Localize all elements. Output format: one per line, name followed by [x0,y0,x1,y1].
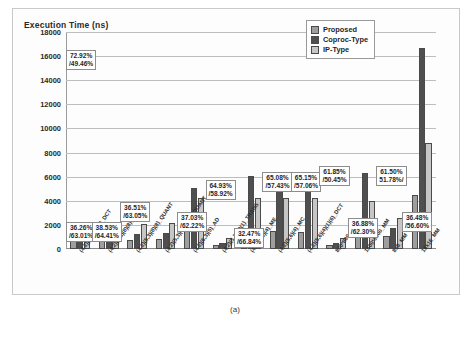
bar-proposed [326,245,332,249]
y-axis-tick-label: 6000 [44,172,61,181]
annotation-line-2: 51.78%/ [379,176,403,184]
annotation-line-2: /49.46% [69,60,93,68]
figure-caption: (a) [0,305,470,314]
bar-group [383,32,403,249]
annotation-line-2: /56.60% [405,222,429,230]
annotation-callout: 38.53%/64.41% [92,222,122,242]
legend-item-ip-type: IP-Type [311,45,368,54]
annotation-line-1: 37.03% [180,214,204,222]
bar-proposed [156,239,162,249]
annotation-line-2: /58.92% [209,190,233,198]
chart-title: Execution Time (ns) [24,20,108,30]
bar-proposed [213,245,219,249]
annotation-line-1: 38.53% [95,224,119,232]
figure-container: Execution Time (ns) 02000400060008000100… [0,0,470,341]
legend-swatch-icon [311,46,319,54]
y-axis-tick-label: 2000 [44,220,61,229]
annotation-callout: 36.48%/56.60% [402,212,432,232]
legend-label: Coproc-Type [323,35,368,44]
bar-proposed [70,241,76,249]
y-axis-tick-label: 8000 [44,148,61,157]
y-axis-tick-label: 10000 [40,124,61,133]
annotation-line-2: /63.05% [123,212,147,220]
legend-label: Proposed [323,25,357,34]
annotation-callout: 32.47%/66.84% [234,228,264,248]
annotation-callout: 61.85%/50.45% [319,166,349,186]
annotation-line-1: 36.51% [123,204,147,212]
legend-item-proposed: Proposed [311,25,368,34]
y-axis-tick-label: 0 [57,245,61,254]
annotation-line-1: 72.92% [69,52,93,60]
annotation-line-1: 64.93% [209,182,233,190]
annotation-callout: 72.92%/49.46% [66,50,96,70]
annotation-callout: 61.50%51.78%/ [376,166,406,186]
annotation-line-1: 32.47% [237,230,261,238]
bar-proposed [298,232,304,249]
y-axis-tick-label: 18000 [40,28,61,37]
annotation-line-2: /66.84% [237,238,261,246]
annotation-line-1: 61.85% [322,168,346,176]
annotation-line-1: 36.48% [405,214,429,222]
x-axis-labels: (4,2)(5,3)(8)(8)_DCT(4,2)(5,3)(8)(8)_IDC… [66,250,436,302]
annotation-line-1: 65.08% [265,174,289,182]
bar-proposed [383,236,389,249]
y-axis-tick-label: 12000 [40,100,61,109]
chart-legend: Proposed Coproc-Type IP-Type [306,20,375,59]
annotation-line-2: /63.01% [69,232,93,240]
annotation-line-1: 36.26% [69,224,93,232]
annotation-line-2: /62.22% [180,222,204,230]
y-axis-tick-label: 14000 [40,76,61,85]
bar-coproc-type [362,173,368,249]
legend-swatch-icon [311,36,319,44]
bar-proposed [127,240,133,249]
annotation-callout: 64.93%/58.92% [206,180,236,200]
bar-proposed [270,231,276,249]
legend-swatch-icon [311,26,319,34]
annotation-line-2: /62.30% [351,228,375,236]
annotation-callout: 65.15%/57.06% [291,172,321,192]
annotation-line-2: /57.43% [265,182,289,190]
annotation-line-2: /64.41% [95,232,119,240]
annotation-line-1: 36.88% [351,220,375,228]
bar-group [355,32,375,249]
annotation-callout: 36.88%/62.30% [348,218,378,238]
y-axis-tick-label: 4000 [44,196,61,205]
annotation-line-2: /57.06% [294,182,318,190]
annotation-line-1: 65.15% [294,174,318,182]
y-axis-tick-label: 16000 [40,52,61,61]
bar-proposed [99,240,105,249]
annotation-line-2: /50.45% [322,176,346,184]
annotation-callout: 65.08%/57.43% [262,172,292,192]
legend-label: IP-Type [323,45,349,54]
annotation-line-1: 61.50% [379,168,403,176]
annotation-callout: 36.51%/63.05% [120,202,150,222]
legend-item-coproc-type: Coproc-Type [311,35,368,44]
annotation-callout: 37.03%/62.22% [177,212,207,232]
